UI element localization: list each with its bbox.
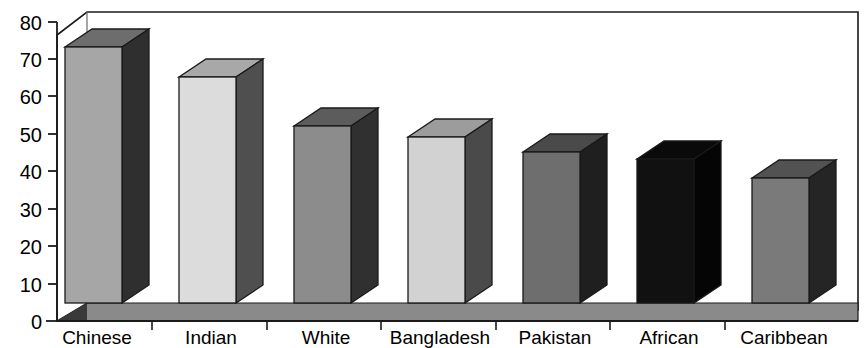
bar-indian[interactable]	[179, 59, 263, 303]
bar-african[interactable]	[637, 141, 721, 303]
bar-pakistan[interactable]	[523, 134, 607, 303]
y-tick-label-50: 50	[20, 124, 42, 146]
bar-chinese[interactable]	[65, 29, 149, 303]
y-tick-label-80: 80	[20, 12, 42, 34]
y-tick-label-0: 0	[31, 311, 42, 333]
category-label-indian: Indian	[185, 327, 237, 348]
bar-bangladesh[interactable]	[408, 119, 492, 303]
y-axis-tick-labels: 80 70 60 50 40 30 20 10 0	[20, 12, 42, 333]
chart-floor	[57, 303, 858, 321]
bar-chart-figure: 80 70 60 50 40 30 20 10 0	[0, 0, 866, 348]
y-tick-label-40: 40	[20, 161, 42, 183]
category-label-caribbean: Caribbean	[740, 327, 828, 348]
category-label-bangladesh: Bangladesh	[390, 327, 490, 348]
bar-white[interactable]	[294, 108, 378, 303]
y-tick-label-20: 20	[20, 236, 42, 258]
category-label-african: African	[639, 327, 698, 348]
y-tick-label-30: 30	[20, 199, 42, 221]
bar-caribbean[interactable]	[752, 160, 836, 303]
y-tick-label-70: 70	[20, 49, 42, 71]
category-label-pakistan: Pakistan	[519, 327, 592, 348]
category-label-chinese: Chinese	[62, 327, 132, 348]
y-tick-label-60: 60	[20, 86, 42, 108]
chart-canvas: 80 70 60 50 40 30 20 10 0	[0, 0, 866, 348]
y-tick-label-10: 10	[20, 274, 42, 296]
category-label-white: White	[302, 327, 351, 348]
